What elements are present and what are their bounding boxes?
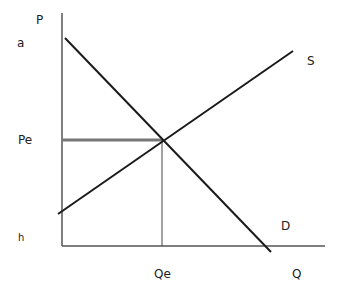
supply-curve xyxy=(58,51,293,214)
quantity-axis-label: Q xyxy=(292,267,301,281)
demand-label: D xyxy=(281,219,290,233)
label-a: a xyxy=(17,36,24,50)
supply-label: S xyxy=(307,54,315,68)
price-axis-label: P xyxy=(36,13,43,27)
supply-demand-diagram: P a Pe h Qe Q S D xyxy=(0,0,347,299)
label-b: h xyxy=(18,232,24,243)
demand-curve xyxy=(65,38,271,252)
label-qe: Qe xyxy=(154,267,171,281)
label-pe: Pe xyxy=(18,133,32,147)
